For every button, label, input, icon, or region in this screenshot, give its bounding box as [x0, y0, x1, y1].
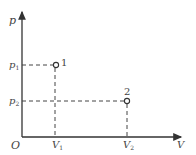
point-2-label: 2 [124, 86, 130, 97]
x-axis-label: V [177, 139, 186, 150]
y-tick-p1: p1 [9, 59, 19, 71]
origin-label: O [11, 139, 20, 152]
state-point-1 [53, 62, 58, 67]
pv-diagram: 1 2 p V O p1 p2 V1 V2 [0, 0, 196, 155]
y-tick-p2: p2 [9, 95, 19, 107]
x-tick-v1: V1 [52, 139, 63, 151]
point-1-label: 1 [61, 57, 67, 68]
y-axis-label: p [9, 14, 16, 27]
x-tick-v2: V2 [123, 139, 134, 151]
state-point-2 [124, 98, 129, 103]
